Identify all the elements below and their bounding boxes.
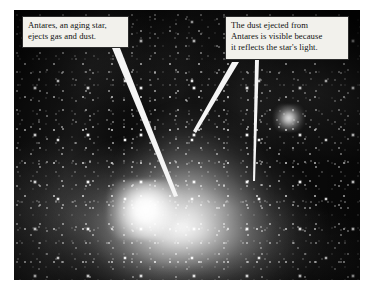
callout-dust-reflects-light: The dust ejected from Antares is visible…	[225, 16, 349, 60]
callout-antares-aging-star: Antares, an aging star, ejects gas and d…	[22, 16, 129, 48]
figure-annotated-photo: Antares, an aging star, ejects gas and d…	[0, 0, 374, 293]
